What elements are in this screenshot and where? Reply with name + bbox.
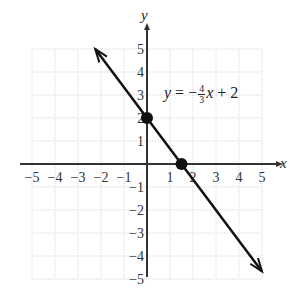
y-tick-label: 3: [137, 88, 144, 103]
y-tick-label: −4: [129, 249, 144, 264]
y-tick-label: 5: [137, 42, 144, 57]
equation-rest: + 2: [217, 84, 238, 101]
x-tick-label: 5: [259, 170, 266, 185]
y-tick-label: −3: [129, 226, 144, 241]
y-tick-label: −1: [129, 180, 144, 195]
fraction-denominator: 3: [198, 95, 205, 105]
y-tick-label: 4: [137, 65, 144, 80]
y-axis-label: y: [139, 7, 148, 23]
y-tick-label: 1: [137, 134, 144, 149]
x-tick-label: −2: [94, 170, 109, 185]
axes: [20, 23, 283, 277]
x-intercept-point: [176, 158, 188, 170]
equation-fraction: 43: [198, 84, 205, 105]
y-tick-label: −2: [129, 203, 144, 218]
x-tick-label: −5: [25, 170, 40, 185]
x-tick-label: −3: [71, 170, 86, 185]
x-tick-label: 3: [213, 170, 220, 185]
chart-plot: −5−4−3−2−11234554321−1−2−3−4−5 x y: [0, 0, 297, 302]
x-tick-label: 4: [236, 170, 243, 185]
equation-var: x: [206, 84, 213, 101]
x-axis-label: x: [279, 155, 287, 171]
equation-sign: −: [188, 84, 197, 101]
x-tick-label: −4: [48, 170, 63, 185]
equation-equals: =: [175, 84, 184, 101]
x-tick-label: 1: [167, 170, 174, 185]
y-intercept-point: [141, 112, 153, 124]
y-tick-label: −5: [129, 272, 144, 287]
equation-annotation: y = −43x + 2: [164, 84, 238, 105]
equation-lhs: y: [164, 84, 171, 101]
